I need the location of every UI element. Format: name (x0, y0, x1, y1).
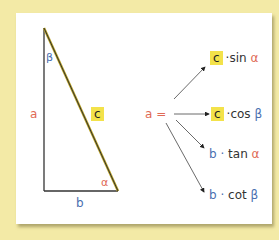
angle-alpha-label: α (101, 176, 108, 190)
side-b-label: b (76, 196, 84, 210)
result-c-sin-alpha: c·sin α (210, 51, 258, 65)
right-triangle (44, 28, 118, 191)
angle-beta-label: β (46, 51, 53, 65)
result-b-cot-beta: b · cot β (209, 188, 258, 202)
equation-lhs: a = (145, 107, 166, 121)
side-a-label: a (30, 107, 37, 121)
arrows (166, 67, 209, 192)
result-b-tan-alpha: b · tan α (209, 147, 260, 161)
result-c-cos-beta: c·cos β (211, 107, 262, 121)
side-c-label: c (91, 107, 104, 121)
